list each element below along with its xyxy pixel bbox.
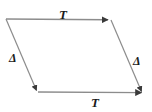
parallelogram-diagram-svg	[0, 0, 152, 112]
left-edge-label: Δ	[9, 52, 17, 64]
bottom-edge-label: T	[91, 96, 99, 109]
right-edge-label: Δ	[133, 55, 141, 67]
bottom-edge-line	[38, 92, 142, 93]
top-edge-label: T	[59, 8, 67, 21]
top-edge-line	[6, 19, 108, 20]
parallelogram-figure: T T Δ Δ	[0, 0, 152, 112]
